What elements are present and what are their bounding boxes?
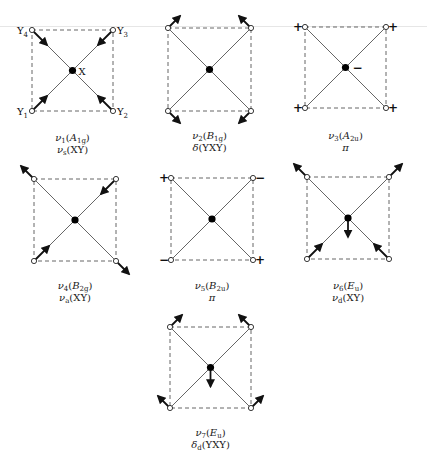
mode-description-label: δ(YXY) — [192, 142, 227, 154]
atom-Y-bottom-right — [110, 108, 115, 113]
atom-label-Y1: Y1 — [16, 106, 28, 120]
mode-description-label: π — [328, 142, 363, 154]
vibrational-modes-diagram: Y4Y3Y1Y2X++++−+−−+ — [0, 0, 427, 464]
arrow-bottom-left-tangential — [169, 112, 180, 123]
arrow-top-left-outward — [21, 166, 33, 178]
atom-Y-bottom-right — [113, 258, 118, 263]
sign-top-left: + — [159, 171, 169, 185]
arrow-bottom-right-inward — [98, 96, 112, 110]
arrow-bottom-left-up-left — [158, 396, 169, 407]
arrow-top-left-tangential — [169, 16, 180, 27]
atom-X-center — [208, 215, 215, 222]
sign-bottom-right: + — [388, 101, 398, 115]
atom-Y-bottom-left — [302, 105, 307, 110]
mode-diagram-v7 — [158, 315, 263, 411]
mode-description-label: δd(YXY) — [191, 439, 230, 451]
mode-diagram-v4 — [21, 166, 129, 274]
mode-description-label: νa(XY) — [58, 292, 93, 304]
atom-Y-top-right — [386, 174, 391, 179]
mode-description-label: νd(XY) — [332, 292, 364, 304]
atom-Y-bottom-left — [168, 257, 173, 262]
arrow-bottom-left-inward — [35, 246, 49, 260]
mode-caption-v6: ν6(Eu)νd(XY) — [332, 280, 364, 304]
mode-diagram-v3: ++++− — [293, 20, 398, 115]
atom-Y-top-right — [248, 324, 253, 329]
arrow-top-left-up-right — [171, 315, 182, 326]
atom-Y-bottom-left — [31, 258, 36, 263]
arrow-bottom-right-inward — [374, 244, 388, 258]
atom-Y-top-right — [248, 25, 253, 30]
sign-bottom-left: + — [293, 101, 303, 115]
atom-Y-bottom-right — [386, 256, 391, 261]
atom-X-center — [206, 66, 213, 73]
atom-Y-top-right — [250, 175, 255, 180]
atom-Y-top-left — [165, 25, 170, 30]
sign-bottom-left: − — [159, 253, 169, 267]
atom-Y-top-left — [167, 324, 172, 329]
arrow-top-left-inward — [33, 31, 47, 45]
mode-symmetry-label: ν1(A1g) — [55, 132, 90, 144]
mode-symmetry-label: ν5(B2u) — [195, 280, 230, 292]
sign-bottom-right: + — [255, 253, 265, 267]
arrow-top-right-inward — [98, 31, 112, 45]
arrow-bottom-left-inward — [33, 96, 47, 110]
arrow-bottom-right-up-right — [252, 396, 263, 407]
atom-Y-top-right — [110, 27, 115, 32]
arrow-top-right-inward — [101, 180, 115, 194]
atom-Y-top-left — [29, 27, 34, 32]
atom-Y-bottom-right — [383, 105, 388, 110]
mode-caption-v1: ν1(A1g)νs(XY) — [55, 132, 90, 156]
sign-center: − — [353, 61, 363, 75]
sign-top-left: + — [293, 20, 303, 34]
mode-diagram-v6 — [294, 164, 402, 262]
mode-symmetry-label: ν3(A2u) — [328, 130, 363, 142]
atom-X-center — [71, 216, 78, 223]
atom-Y-bottom-left — [29, 108, 34, 113]
atom-label-X: X — [79, 66, 87, 77]
atom-Y-top-left — [304, 174, 309, 179]
atom-label-Y3: Y3 — [116, 25, 128, 39]
mode-diagram-v1: Y4Y3Y1Y2X — [16, 25, 128, 120]
mode-symmetry-label: ν2(B1g) — [192, 130, 227, 142]
atom-X-center — [342, 64, 349, 71]
mode-caption-v3: ν3(A2u)π — [328, 130, 363, 154]
atom-Y-bottom-left — [304, 256, 309, 261]
atom-Y-top-left — [168, 175, 173, 180]
mode-caption-v7: ν7(Eu)δd(YXY) — [191, 427, 230, 451]
arrow-bottom-left-inward — [308, 244, 322, 258]
mode-diagram-v2 — [165, 16, 253, 123]
arrow-top-right-outward — [390, 164, 402, 176]
mode-description-label: π — [195, 292, 230, 304]
mode-symmetry-label: ν6(Eu) — [332, 280, 364, 292]
mode-diagram-v5: +−−+ — [159, 171, 265, 267]
mode-symmetry-label: ν7(Eu) — [191, 427, 230, 439]
atom-label-Y4: Y4 — [16, 25, 29, 39]
atom-Y-bottom-right — [248, 405, 253, 410]
sign-top-right: − — [255, 171, 265, 185]
arrow-bottom-right-outward — [117, 262, 129, 274]
atom-X-center — [344, 214, 351, 221]
arrow-bottom-right-tangential — [239, 112, 250, 123]
atom-Y-top-right — [113, 176, 118, 181]
arrow-top-left-outward — [294, 164, 306, 176]
atom-Y-top-left — [302, 24, 307, 29]
atom-Y-bottom-right — [248, 108, 253, 113]
arrow-top-right-up-left — [239, 315, 250, 326]
mode-description-label: νs(XY) — [55, 144, 90, 156]
atom-Y-bottom-right — [250, 257, 255, 262]
mode-symmetry-label: ν4(B2g) — [58, 280, 93, 292]
sign-top-right: + — [388, 20, 398, 34]
mode-caption-v4: ν4(B2g)νa(XY) — [58, 280, 93, 304]
mode-caption-v2: ν2(B1g)δ(YXY) — [192, 130, 227, 154]
atom-Y-top-right — [383, 24, 388, 29]
mode-caption-v5: ν5(B2u)π — [195, 280, 230, 304]
atom-X-center — [207, 364, 214, 371]
atom-X-center — [69, 67, 76, 74]
arrow-top-right-tangential — [239, 16, 250, 27]
atom-Y-bottom-left — [165, 108, 170, 113]
atom-label-Y2: Y2 — [116, 106, 128, 120]
atom-Y-bottom-left — [167, 405, 172, 410]
atom-Y-top-left — [31, 176, 36, 181]
